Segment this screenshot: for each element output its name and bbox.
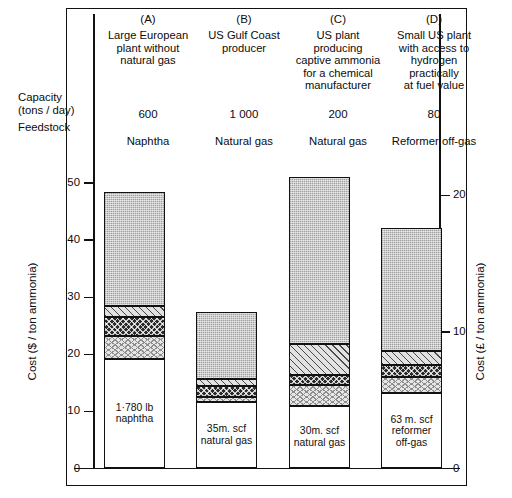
bar-base-label: 30m. scfnatural gas	[290, 425, 349, 448]
bar-segment-utilities	[289, 385, 350, 406]
bar-segment-capital-charges	[381, 228, 442, 352]
bar-segment-feedstock: 35m. scfnatural gas	[196, 402, 257, 469]
bar-base-label: 63 m. scfreformeroff-gas	[382, 413, 441, 448]
bar-segment-labour-and-overheads	[289, 375, 350, 385]
bars-layer: 1·780 lbnaphtha35m. scfnatural gas30m. s…	[0, 0, 512, 498]
bar-base-label: 35m. scfnatural gas	[197, 423, 256, 446]
bar-segment-other-operating-costs	[196, 379, 257, 386]
stacked-bar-d: 63 m. scfreformeroff-gas	[381, 0, 442, 498]
bar-segment-utilities	[196, 397, 257, 402]
bar-segment-capital-charges	[104, 192, 165, 306]
bar-segment-other-operating-costs	[289, 344, 350, 375]
bar-segment-labour-and-overheads	[104, 317, 165, 336]
bar-segment-labour-and-overheads	[381, 365, 442, 377]
bar-segment-feedstock: 30m. scfnatural gas	[289, 406, 350, 469]
bar-segment-utilities	[381, 377, 442, 393]
bar-segment-feedstock: 1·780 lbnaphtha	[104, 359, 165, 469]
bar-base-label: 1·780 lbnaphtha	[105, 402, 164, 425]
stacked-bar-c: 30m. scfnatural gas	[289, 0, 350, 498]
bar-segment-other-operating-costs	[104, 306, 165, 317]
bar-segment-capital-charges	[196, 312, 257, 379]
bar-segment-capital-charges	[289, 177, 350, 344]
stacked-bar-a: 1·780 lbnaphtha	[104, 0, 165, 498]
bar-segment-labour-and-overheads	[196, 386, 257, 397]
bar-segment-utilities	[104, 336, 165, 359]
bar-segment-feedstock: 63 m. scfreformeroff-gas	[381, 393, 442, 469]
chart-plate: Capacity (tons / day) Feedstock (A) Larg…	[0, 0, 512, 498]
bar-segment-other-operating-costs	[381, 351, 442, 364]
stacked-bar-b: 35m. scfnatural gas	[196, 0, 257, 498]
